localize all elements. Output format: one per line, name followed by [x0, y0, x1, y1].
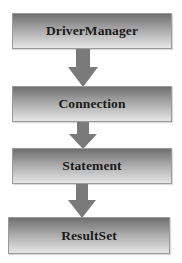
node-resultset: ResultSet	[8, 217, 170, 254]
node-driver-manager: DriverManager	[12, 13, 172, 49]
node-label: DriverManager	[46, 23, 138, 39]
arrow-down-icon	[66, 184, 98, 218]
arrow-down-icon	[66, 49, 100, 87]
arrow-down-icon	[67, 122, 99, 149]
node-label: ResultSet	[61, 228, 117, 244]
node-statement: Statement	[12, 148, 172, 184]
node-label: Statement	[62, 158, 121, 174]
node-connection: Connection	[12, 86, 172, 122]
node-label: Connection	[58, 96, 125, 112]
